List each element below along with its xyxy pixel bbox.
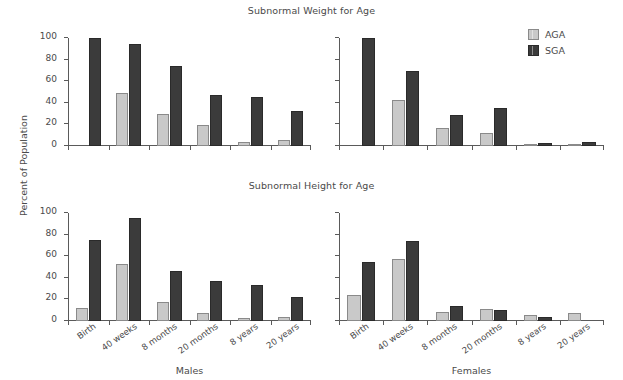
- bar-aga-4: [238, 142, 250, 146]
- bar-sga-4: [538, 317, 551, 321]
- x-tick: [516, 146, 517, 150]
- bar-sga-0: [362, 38, 375, 146]
- y-tick: 60: [64, 80, 68, 81]
- y-tick-label: 80: [46, 228, 57, 238]
- y-tick: [335, 59, 339, 60]
- bar-aga-3: [197, 125, 209, 146]
- figure-subnormal-growth: Subnormal Weight for Age Subnormal Heigh…: [0, 0, 623, 380]
- x-tick: [109, 321, 110, 325]
- bar-sga-0: [362, 262, 375, 321]
- bar-aga-0: [347, 295, 360, 321]
- y-tick: [335, 298, 339, 299]
- bar-aga-2: [157, 302, 169, 321]
- y-tick: 100: [64, 37, 68, 38]
- x-tick: [149, 146, 150, 150]
- x-tick: [560, 146, 561, 150]
- y-tick-label: 100: [40, 206, 57, 216]
- plot-area: Birth40 weeks8 months20 months8 years20 …: [339, 213, 604, 321]
- x-tick: [427, 146, 428, 150]
- y-tick-label: 0: [51, 139, 57, 149]
- bar-aga-1: [116, 93, 128, 146]
- y-tick: [335, 102, 339, 103]
- x-tick: [68, 146, 69, 150]
- bar-aga-1: [116, 264, 128, 321]
- x-tick: [339, 321, 340, 325]
- x-tick: [339, 146, 340, 150]
- x-tick: [68, 321, 69, 325]
- legend-label-aga: AGA: [545, 29, 565, 40]
- x-tick: [230, 321, 231, 325]
- legend-item-sga[interactable]: SGA: [528, 42, 565, 58]
- x-tick: [190, 146, 191, 150]
- y-axis: [339, 38, 340, 146]
- plot-area: 020406080100Birth40 weeks8 months20 mont…: [68, 213, 311, 321]
- x-tick: [310, 321, 311, 325]
- y-tick-label: 20: [46, 117, 57, 127]
- y-tick: 80: [64, 234, 68, 235]
- y-tick: [335, 234, 339, 235]
- plot-weight-males: 020406080100: [68, 38, 311, 146]
- bar-sga-5: [291, 297, 303, 321]
- bar-sga-5: [291, 111, 303, 146]
- y-tick: [335, 212, 339, 213]
- y-tick-label: 0: [51, 314, 57, 324]
- bar-sga-5: [582, 142, 595, 146]
- legend: AGA SGA: [528, 26, 565, 58]
- bar-sga-4: [251, 97, 263, 146]
- y-tick: 20: [64, 298, 68, 299]
- bar-aga-2: [157, 114, 169, 146]
- bar-sga-2: [450, 115, 463, 146]
- bar-aga-5: [278, 317, 290, 321]
- y-axis: [68, 38, 69, 146]
- bar-sga-1: [129, 218, 141, 321]
- legend-swatch-sga-icon: [528, 45, 539, 56]
- x-tick: [383, 146, 384, 150]
- bar-sga-2: [170, 66, 182, 146]
- bar-aga-5: [278, 140, 290, 146]
- y-tick: [335, 123, 339, 124]
- legend-item-aga[interactable]: AGA: [528, 26, 565, 42]
- plot-height-females: Birth40 weeks8 months20 months8 years20 …: [339, 213, 604, 321]
- bar-aga-5: [568, 313, 581, 321]
- x-tick: [230, 146, 231, 150]
- bar-aga-4: [524, 315, 537, 321]
- bar-aga-4: [238, 318, 250, 321]
- y-tick: [335, 37, 339, 38]
- y-axis: [68, 213, 69, 321]
- y-tick: 20: [64, 123, 68, 124]
- bar-sga-4: [538, 143, 551, 146]
- x-tick: [427, 321, 428, 325]
- panel-title-height: Subnormal Height for Age: [0, 180, 623, 191]
- bar-aga-2: [436, 128, 449, 146]
- y-tick: 80: [64, 59, 68, 60]
- bar-aga-1: [392, 259, 405, 321]
- x-tick: [516, 321, 517, 325]
- bar-sga-3: [210, 281, 222, 321]
- bar-aga-1: [392, 100, 405, 146]
- x-tick: [472, 321, 473, 325]
- y-tick: 40: [64, 102, 68, 103]
- x-tick: [271, 321, 272, 325]
- x-tick: [603, 146, 604, 150]
- bar-aga-3: [480, 309, 493, 321]
- y-tick: [335, 80, 339, 81]
- y-tick: 40: [64, 277, 68, 278]
- x-tick: [109, 146, 110, 150]
- x-axis-label-females-weight: Females: [339, 365, 604, 376]
- plot-height-males: 020406080100Birth40 weeks8 months20 mont…: [68, 213, 311, 321]
- y-tick-label: 60: [46, 74, 57, 84]
- bar-sga-4: [251, 285, 263, 321]
- y-tick-label: 80: [46, 53, 57, 63]
- y-tick-label: 60: [46, 249, 57, 259]
- bar-sga-1: [406, 241, 419, 321]
- plot-area: 020406080100: [68, 38, 311, 146]
- x-tick: [149, 321, 150, 325]
- x-tick: [560, 321, 561, 325]
- bar-sga-2: [170, 271, 182, 321]
- x-tick: [190, 321, 191, 325]
- y-axis: [339, 213, 340, 321]
- x-tick: [271, 146, 272, 150]
- bar-aga-0: [76, 308, 88, 321]
- bar-sga-0: [89, 38, 101, 146]
- y-axis-label: Percent of Population: [18, 91, 29, 241]
